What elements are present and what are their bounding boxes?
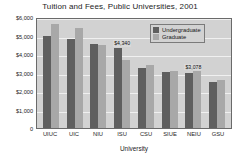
bar-value-label: $4,340 [113, 40, 131, 47]
bar-undergraduate-uiuc [43, 36, 51, 129]
x-axis-tick-uic: UIC [62, 131, 86, 137]
x-axis-title: University [36, 145, 232, 152]
legend-label: Undergraduate [162, 27, 201, 33]
x-axis-tick-isu: ISU [110, 131, 134, 137]
x-axis-tick-niu: NIU [86, 131, 110, 137]
bar-graduate-isu [122, 60, 130, 128]
bar-graduate-neiu [193, 71, 201, 128]
bar-undergraduate-isu [114, 48, 122, 128]
x-axis-tick-gsu: GSU [206, 131, 230, 137]
legend-entry: Graduate [153, 34, 201, 40]
y-axis-tick: $3,000 [16, 71, 33, 77]
x-axis-tick-siue: SIUE [158, 131, 182, 137]
chart-legend: UndergraduateGraduate [150, 24, 205, 43]
legend-swatch-icon [153, 27, 159, 33]
legend-entry: Undergraduate [153, 27, 201, 33]
y-axis-tick: $1,000 [16, 108, 33, 114]
bar-graduate-uiuc [51, 24, 59, 128]
x-axis-tick-neiu: NEIU [182, 131, 206, 137]
x-axis-tick-csu: CSU [134, 131, 158, 137]
y-axis-tick: $6,000 [16, 15, 33, 21]
y-axis-tick: $5,000 [16, 34, 33, 40]
bar-graduate-uic [75, 28, 83, 128]
y-axis-tick: $2,000 [16, 89, 33, 95]
y-axis-tick-labels: $6,000$5,000$4,000$3,000$2,000$1,0000 [0, 18, 33, 129]
y-axis-tick: 0 [30, 126, 33, 132]
bar-group [87, 19, 111, 128]
chart-title: Tuition and Fees, Public Universities, 2… [0, 2, 240, 11]
x-axis-tick-uiuc: UIUC [38, 131, 62, 137]
bar-graduate-siue [170, 71, 178, 128]
bar-undergraduate-neiu [185, 73, 193, 128]
legend-swatch-icon [153, 34, 159, 40]
bar-undergraduate-siue [162, 72, 170, 128]
bar-group [63, 19, 87, 128]
bar-chart-figure: Tuition and Fees, Public Universities, 2… [0, 0, 240, 166]
bar-undergraduate-uic [67, 39, 75, 128]
bar-graduate-gsu [217, 80, 225, 128]
bar-graduate-niu [98, 45, 106, 128]
y-axis-tick: $4,000 [16, 52, 33, 58]
x-axis-tick-labels: UIUCUICNIUISUCSUSIUENEIUGSU [36, 131, 232, 137]
bar-group: $4,340 [110, 19, 134, 128]
bar-value-label: $3,078 [184, 64, 202, 71]
bar-group [39, 19, 63, 128]
bar-undergraduate-niu [90, 44, 98, 128]
bar-group [205, 19, 229, 128]
bar-graduate-csu [146, 65, 154, 128]
bar-undergraduate-gsu [209, 82, 217, 128]
bar-undergraduate-csu [138, 68, 146, 128]
legend-label: Graduate [162, 34, 186, 40]
